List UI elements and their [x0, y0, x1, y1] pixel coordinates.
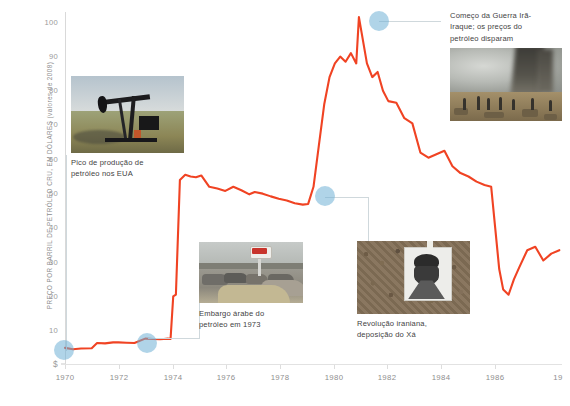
x-tick-1974: 1974: [164, 373, 183, 382]
annotation-arab-embargo: Embargo árabe do petróleo em 1973: [199, 308, 319, 331]
annotation-iran-iraq-war-line2: Iraque; os preços do: [450, 21, 566, 32]
annotation-us-peak: Pico de produção de petróleo nos EUA: [71, 157, 191, 180]
leader-us-peak-v: [66, 155, 67, 351]
y-tick-70: 70: [49, 120, 58, 129]
y-tick-30: 30: [49, 258, 58, 267]
y-tick-60: 60: [49, 155, 58, 164]
x-tick-1980: 1980: [325, 373, 344, 382]
marker-arab-embargo[interactable]: [137, 333, 157, 353]
y-axis-title: PREÇO POR BARRIL DE PETRÓLEO CRU, EM DÓL…: [46, 41, 53, 331]
annotation-iran-iraq-war: Começo da Guerra Irã- Iraque; os preços …: [450, 10, 566, 44]
annotation-arab-embargo-line2: petróleo em 1973: [199, 319, 319, 330]
x-tick-1984: 1984: [432, 373, 451, 382]
y-tick-90: 90: [49, 52, 58, 61]
annotation-iran-iraq-war-line1: Começo da Guerra Irã-: [450, 10, 566, 21]
y-tick-80: 80: [49, 86, 58, 95]
marker-iran-revolution[interactable]: [315, 186, 335, 206]
annotation-iran-revolution-line1: Revolução iraniana,: [357, 318, 487, 329]
x-tick-1986: 1986: [486, 373, 505, 382]
y-tick-dollar: $: [53, 359, 58, 369]
x-tick-1972: 1972: [110, 373, 129, 382]
marker-us-peak[interactable]: [54, 340, 74, 360]
y-tick-20: 20: [49, 292, 58, 301]
annotation-iran-revolution: Revolução iraniana, deposição do Xá: [357, 318, 487, 341]
leader-iran-v: [368, 197, 369, 241]
oil-pump-photo: [71, 76, 184, 153]
y-tick-50: 50: [49, 189, 58, 198]
annotation-iran-iraq-war-line3: petróleo disparam: [450, 33, 566, 44]
marker-iran-iraq-war[interactable]: [369, 11, 389, 31]
y-tick-40: 40: [49, 223, 58, 232]
annotation-us-peak-line1: Pico de produção de: [71, 157, 191, 168]
annotation-us-peak-line2: petróleo nos EUA: [71, 168, 191, 179]
iran-crowd-photo: [357, 241, 470, 314]
y-tick-100: 100: [44, 18, 58, 27]
annotation-iran-revolution-line2: deposição do Xá: [357, 329, 487, 340]
x-tick-1970: 1970: [56, 373, 75, 382]
x-tick-1976: 1976: [217, 373, 236, 382]
x-tick-1982: 1982: [378, 373, 397, 382]
annotation-arab-embargo-line1: Embargo árabe do: [199, 308, 319, 319]
y-tick-10: 10: [49, 326, 58, 335]
oil-price-chart: PREÇO POR BARRIL DE PETRÓLEO CRU, EM DÓL…: [0, 0, 570, 406]
gas-station-photo: [199, 242, 303, 303]
x-tick-1978: 1978: [271, 373, 290, 382]
burning-oil-photo: [450, 48, 562, 121]
x-tick-1988: 19: [553, 373, 562, 382]
